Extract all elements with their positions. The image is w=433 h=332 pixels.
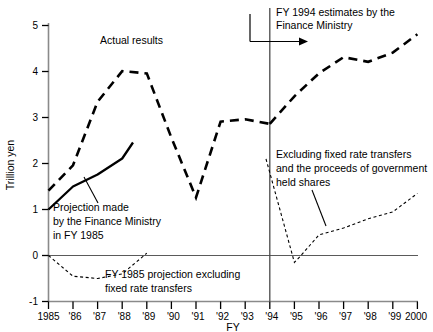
annotation-actual-results: Actual results [100, 34, 163, 46]
annotation-proceeds-line1: Excluding fixed rate transfers [276, 148, 411, 160]
x-tick-label-1995: '95 [290, 311, 303, 322]
x-tick-label-1991: '91 [191, 311, 204, 322]
chart-container: 5 4 3 2 1 0 -1 Trillion yen 1985 '86 '87… [0, 0, 433, 332]
x-axis-title: FY [226, 321, 239, 332]
y-tick-label-3: 3 [32, 112, 38, 123]
annotation-projection-leader-line [84, 177, 98, 203]
annotation-excluding-proceeds: Excluding fixed rate transfers and the p… [276, 148, 427, 226]
x-tick-label-1998: '98 [364, 311, 377, 322]
series-actual-results [49, 71, 270, 197]
annotation-projection-line3: in FY 1985 [53, 229, 104, 241]
annotation-projection-excluding: FY 1985 projection excluding fixed rate … [105, 268, 240, 294]
x-tick-label-1993: '93 [241, 311, 254, 322]
annotation-fy1994-line2: Finance Ministry [276, 19, 353, 31]
y-tick-label-minus1: -1 [29, 296, 38, 307]
series-excluding-transfers-and-proceeds [266, 159, 417, 263]
y-tick-label-4: 4 [32, 66, 38, 77]
y-axis-title: Trillion yen [4, 140, 16, 191]
x-tick-label-1985: 1985 [37, 311, 60, 322]
annotation-projection-line2: by the Finance Ministry [53, 215, 162, 227]
x-tick-label-1987: '87 [93, 311, 106, 322]
x-tick-label-1990: '90 [167, 311, 180, 322]
annotation-excluding-line1: FY 1985 projection excluding [105, 268, 240, 280]
x-tick-label-1996: '96 [314, 311, 327, 322]
line-chart: 5 4 3 2 1 0 -1 Trillion yen 1985 '86 '87… [0, 0, 433, 332]
annotation-proceeds-line3: held shares [276, 176, 330, 188]
y-tick-label-2: 2 [32, 158, 38, 169]
y-tick-label-1: 1 [32, 204, 38, 215]
annotation-fy1994-arrowhead [299, 38, 308, 46]
x-tick-label-1986: '86 [68, 311, 81, 322]
series-fy1994-estimates [270, 34, 418, 124]
x-tick-label-1994: '94 [265, 311, 278, 322]
annotation-proceeds-leader-line [312, 190, 326, 226]
x-tick-label-2000: 2000 [405, 311, 428, 322]
x-tick-label-1989: '89 [142, 311, 155, 322]
y-tick-label-0: 0 [32, 250, 38, 261]
x-tick-label-1999: '99 [388, 311, 401, 322]
annotation-fy1994-line1: FY 1994 estimates by the [276, 6, 395, 18]
y-axis-ticks: 5 4 3 2 1 0 -1 [29, 20, 48, 307]
x-tick-label-1997: '97 [339, 311, 352, 322]
annotation-proceeds-line2: and the proceeds of government [276, 162, 427, 174]
annotation-excluding-line2: fixed rate transfers [105, 282, 192, 294]
x-tick-label-1988: '88 [118, 311, 131, 322]
annotation-projection-1985: Projection made by the Finance Ministry … [53, 177, 162, 241]
y-tick-label-5: 5 [32, 20, 38, 31]
x-axis-ticks: 1985 '86 '87 '88 '89 '90 '91 '92 '93 '94… [37, 302, 427, 323]
annotation-projection-line1: Projection made [53, 201, 129, 213]
annotation-fy1994-estimates: FY 1994 estimates by the Finance Ministr… [250, 6, 395, 46]
